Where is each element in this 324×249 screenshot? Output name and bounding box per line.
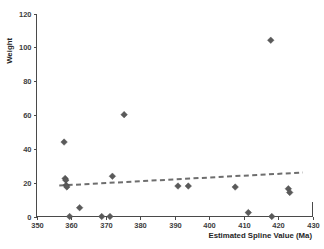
y-tick-label: 40 — [23, 145, 31, 154]
data-point — [268, 213, 275, 220]
data-point — [175, 183, 182, 190]
data-point — [121, 111, 128, 118]
data-point — [232, 184, 239, 191]
data-point — [267, 37, 274, 44]
y-tick-label: 80 — [23, 77, 31, 86]
data-point — [98, 213, 105, 220]
x-tick-label: 430 — [307, 221, 320, 230]
x-axis-ticks: 350360370380390400410420430 — [31, 217, 320, 231]
data-point — [185, 183, 192, 190]
x-tick-label: 360 — [65, 221, 78, 230]
chart-canvas: 020406080100120 350360370380390400410420… — [0, 0, 324, 249]
y-axis-title: Weight — [5, 38, 14, 64]
x-tick-label: 420 — [272, 221, 285, 230]
trend-line — [59, 173, 303, 186]
scatter-plot-figure: 020406080100120 350360370380390400410420… — [0, 0, 324, 249]
data-point — [109, 173, 116, 180]
x-tick-label: 390 — [169, 221, 182, 230]
x-axis-title: Estimated Spline Value (Ma) — [208, 231, 312, 240]
x-tick-label: 380 — [134, 221, 147, 230]
data-points-group — [61, 37, 293, 220]
x-tick-label: 370 — [100, 221, 113, 230]
data-point — [61, 139, 68, 146]
y-tick-label: 60 — [23, 111, 31, 120]
x-tick-label: 400 — [203, 221, 216, 230]
x-tick-label: 410 — [238, 221, 251, 230]
y-tick-label: 20 — [23, 179, 31, 188]
y-axis-ticks: 020406080100120 — [19, 10, 37, 222]
data-point — [107, 213, 114, 220]
data-point — [76, 204, 83, 211]
data-point — [245, 209, 252, 216]
y-tick-label: 120 — [19, 10, 32, 19]
y-tick-label: 100 — [19, 43, 32, 52]
x-tick-label: 350 — [31, 221, 44, 230]
